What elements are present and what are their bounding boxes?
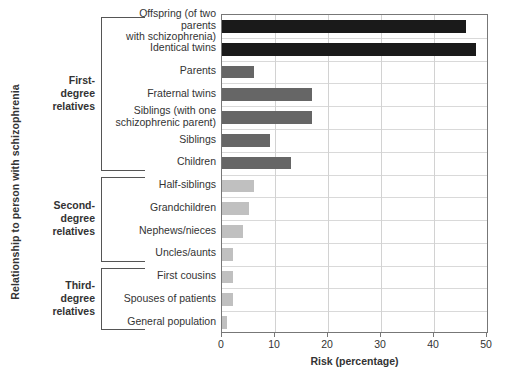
- category-label: Siblings (with one schizophrenic parent): [110, 105, 221, 128]
- schizophrenia-risk-bar-chart: Relationship to person with schizophreni…: [0, 0, 511, 384]
- row-separator-line: [222, 152, 487, 153]
- bar: [222, 134, 270, 147]
- bar: [222, 180, 254, 193]
- bar: [222, 88, 312, 101]
- x-tick-label-50: 50: [466, 338, 506, 350]
- category-label: Spouses of patients: [110, 287, 221, 310]
- category-label: Fraternal twins: [110, 82, 221, 105]
- x-tick-label-40: 40: [413, 338, 453, 350]
- x-axis-title: Risk (percentage): [221, 355, 488, 367]
- category-label: Half-siblings: [110, 174, 221, 197]
- category-label: Grandchildren: [110, 196, 221, 219]
- category-label: Parents: [110, 60, 221, 83]
- bar: [222, 248, 233, 261]
- bar: [222, 20, 466, 33]
- category-label: Siblings: [110, 128, 221, 151]
- row-separator-line: [222, 129, 487, 130]
- x-tick-mark-20: [327, 333, 328, 337]
- row-separator-line: [222, 288, 487, 289]
- group-label-third-degree: Third- degree relatives: [33, 279, 95, 318]
- category-label: Identical twins: [110, 37, 221, 60]
- row-separator-line: [222, 38, 487, 39]
- bar: [222, 271, 233, 284]
- bar: [222, 43, 476, 56]
- row-separator-line: [222, 243, 487, 244]
- x-tick-mark-40: [433, 333, 434, 337]
- gridline-x-30: [381, 15, 382, 332]
- category-label: Uncles/aunts: [110, 242, 221, 265]
- bar: [222, 157, 291, 170]
- bar: [222, 202, 249, 215]
- category-label: Children: [110, 151, 221, 174]
- gridline-x-40: [434, 15, 435, 332]
- x-tick-mark-10: [274, 333, 275, 337]
- gridline-x-10: [275, 15, 276, 332]
- row-separator-line: [222, 220, 487, 221]
- bar: [222, 293, 233, 306]
- bar: [222, 66, 254, 79]
- gridline-x-20: [328, 15, 329, 332]
- x-tick-label-0: 0: [201, 338, 241, 350]
- x-tick-label-30: 30: [360, 338, 400, 350]
- row-separator-line: [222, 266, 487, 267]
- bar: [222, 316, 227, 329]
- plot-inner: [222, 15, 487, 332]
- plot-area: [221, 14, 488, 333]
- category-label: First cousins: [110, 265, 221, 288]
- row-separator-line: [222, 61, 487, 62]
- row-separator-line: [222, 106, 487, 107]
- x-tick-mark-50: [486, 333, 487, 337]
- group-label-first-degree: First- degree relatives: [33, 74, 95, 113]
- row-separator-line: [222, 311, 487, 312]
- x-tick-label-20: 20: [307, 338, 347, 350]
- x-tick-label-10: 10: [254, 338, 294, 350]
- y-axis-title: Relationship to person with schizophreni…: [0, 0, 30, 384]
- x-tick-mark-0: [221, 333, 222, 337]
- x-tick-mark-30: [380, 333, 381, 337]
- row-separator-line: [222, 175, 487, 176]
- bar: [222, 225, 243, 238]
- row-separator-line: [222, 83, 487, 84]
- bar: [222, 111, 312, 124]
- category-label: General population: [110, 310, 221, 333]
- row-separator-line: [222, 197, 487, 198]
- group-label-second-degree: Second- degree relatives: [33, 199, 95, 238]
- category-label: Offspring (of two parents with schizophr…: [110, 14, 221, 37]
- category-label: Nephews/nieces: [110, 219, 221, 242]
